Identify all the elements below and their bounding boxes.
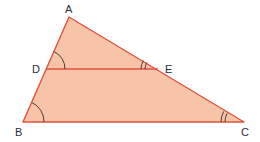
- label-b: B: [15, 126, 22, 138]
- label-e: E: [165, 63, 172, 75]
- label-a: A: [65, 3, 73, 15]
- label-d: D: [32, 63, 40, 75]
- triangle-diagram: A D E B C: [0, 0, 260, 142]
- label-c: C: [241, 126, 249, 138]
